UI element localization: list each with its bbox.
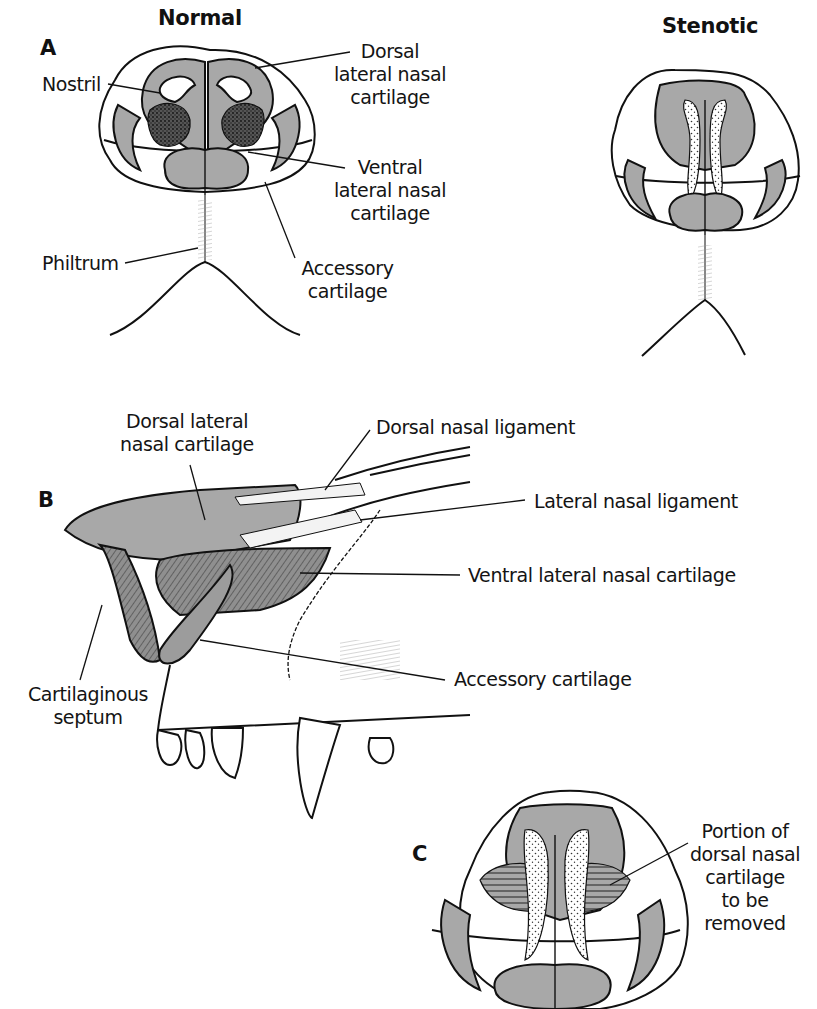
label-line: Portion of [685,820,805,843]
label-nostril: Nostril [42,73,101,96]
label-accessory-cartilage-a: Accessory cartilage [295,257,400,303]
label-line: removed [685,912,805,935]
label-portion-to-be-removed: Portion of dorsal nasal cartilage to be … [685,820,805,935]
label-line: lateral nasal [330,179,450,202]
label-line: cartilage [685,866,805,889]
label-ventral-lateral-nasal-cartilage-b: Ventral lateral nasal cartilage [468,564,736,587]
label-line: Ventral [330,156,450,179]
label-cartilaginous-septum: Cartilaginous septum [18,683,158,729]
label-line: Dorsal lateral [112,410,262,433]
label-line: lateral nasal [330,63,450,86]
normal-nose-drawing [99,46,314,335]
label-philtrum: Philtrum [42,252,119,275]
label-accessory-cartilage-b: Accessory cartilage [454,668,631,691]
normal-title: Normal [158,6,242,30]
label-line: cartilage [295,280,400,303]
surgical-nose-drawing [432,791,688,1009]
lateral-nose-drawing [65,447,470,818]
label-line: septum [18,706,158,729]
label-line: Dorsal [330,40,450,63]
label-dorsal-nasal-ligament: Dorsal nasal ligament [376,416,575,439]
label-lateral-nasal-ligament: Lateral nasal ligament [534,490,738,513]
label-ventral-lateral-nasal-cartilage-a: Ventral lateral nasal cartilage [330,156,450,225]
label-line: Cartilaginous [18,683,158,706]
panel-letter-a: A [40,36,56,60]
label-dorsal-lateral-nasal-cartilage-a: Dorsal lateral nasal cartilage [330,40,450,109]
label-dorsal-lateral-nasal-cartilage-b: Dorsal lateral nasal cartilage [112,410,262,456]
stenotic-title: Stenotic [662,14,758,38]
label-line: to be [685,889,805,912]
label-line: nasal cartilage [112,433,262,456]
label-line: Accessory [295,257,400,280]
label-line: cartilage [330,202,450,225]
stenotic-nose-drawing [612,70,800,356]
panel-letter-b: B [38,488,54,512]
label-line: cartilage [330,86,450,109]
panel-letter-c: C [412,842,427,866]
label-line: dorsal nasal [685,843,805,866]
